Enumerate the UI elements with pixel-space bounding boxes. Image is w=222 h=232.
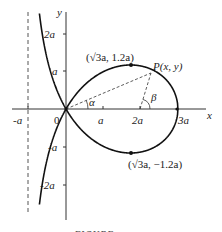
upper-point-label: (√3a, 1.2a) (86, 51, 134, 64)
y-tick-a: a (52, 65, 58, 77)
y-tick-2a: 2a (44, 28, 56, 40)
beta-label: β (150, 91, 157, 103)
alpha-label: α (89, 96, 95, 108)
point-lower (129, 151, 133, 155)
y-tick-neg-a: -a (48, 141, 58, 153)
alpha-arc (86, 100, 88, 109)
P-label: P(x, y) (152, 60, 183, 73)
origin-label: 0 (54, 114, 60, 126)
strophoid-figure: y x 0 -a a 2a 3a 2a a -a -2a (√3a, 1.2a)… (0, 0, 222, 232)
beta-arc (143, 99, 150, 109)
point-origin (64, 107, 67, 110)
x-tick-neg-a: -a (13, 114, 23, 126)
x-tick-2a: 2a (132, 114, 144, 126)
point-3a (175, 107, 178, 110)
2a-to-P-line (140, 73, 151, 109)
lower-point-label: (√3a, −1.2a) (128, 158, 182, 171)
figure-caption: FIGURE (75, 229, 115, 232)
x-tick-3a: 3a (177, 114, 190, 126)
y-axis-label: y (56, 6, 62, 18)
point-upper (129, 63, 133, 67)
x-axis-label: x (206, 109, 212, 121)
x-tick-a: a (98, 114, 104, 126)
y-tick-neg-2a: -2a (40, 179, 55, 191)
